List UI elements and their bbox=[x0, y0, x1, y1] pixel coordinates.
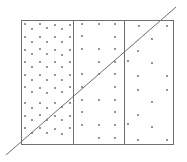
dot bbox=[31, 119, 33, 121]
dot bbox=[46, 41, 48, 43]
dot bbox=[61, 28, 63, 30]
dot bbox=[61, 41, 63, 43]
dot bbox=[114, 73, 116, 75]
dot bbox=[81, 99, 83, 101]
dot bbox=[39, 48, 41, 50]
section-right bbox=[127, 25, 168, 141]
dot bbox=[114, 48, 116, 50]
dot bbox=[127, 123, 129, 125]
dot bbox=[166, 25, 168, 27]
dot bbox=[98, 23, 100, 25]
dot bbox=[69, 127, 71, 129]
dot bbox=[46, 53, 48, 55]
dot bbox=[54, 128, 56, 130]
dot bbox=[98, 124, 100, 126]
dot bbox=[31, 41, 33, 43]
dot bbox=[46, 27, 48, 29]
dot bbox=[69, 115, 71, 117]
dot bbox=[54, 61, 56, 63]
dot bbox=[24, 74, 26, 76]
dot bbox=[54, 36, 56, 38]
dot bbox=[39, 127, 41, 129]
dot bbox=[24, 102, 26, 104]
dot bbox=[151, 62, 153, 64]
dot bbox=[61, 119, 63, 121]
dot bbox=[39, 61, 41, 63]
dot bbox=[46, 107, 48, 109]
dot bbox=[39, 74, 41, 76]
dot bbox=[98, 48, 100, 50]
dot bbox=[69, 49, 71, 51]
dot bbox=[39, 87, 41, 89]
dot bbox=[54, 74, 56, 76]
dot bbox=[31, 28, 33, 30]
dot bbox=[24, 61, 26, 63]
dot bbox=[166, 139, 168, 141]
dot bbox=[114, 36, 116, 38]
dot bbox=[114, 111, 116, 113]
dot bbox=[39, 114, 41, 116]
dot bbox=[114, 137, 116, 139]
dot bbox=[61, 79, 63, 81]
dot bbox=[24, 127, 26, 129]
dot bbox=[151, 38, 153, 40]
dot bbox=[31, 91, 33, 93]
dot bbox=[98, 61, 100, 63]
dot bbox=[39, 36, 41, 38]
dot bbox=[61, 66, 63, 68]
dot bbox=[24, 36, 26, 38]
section-left bbox=[24, 23, 71, 135]
dot bbox=[31, 53, 33, 55]
dot bbox=[54, 87, 56, 89]
dot bbox=[137, 75, 139, 77]
dot bbox=[137, 89, 139, 91]
dot bbox=[54, 24, 56, 26]
dot bbox=[46, 92, 48, 94]
dot bbox=[114, 86, 116, 88]
dot bbox=[114, 124, 116, 126]
dot bbox=[24, 49, 26, 51]
dot bbox=[137, 114, 139, 116]
dot bbox=[81, 124, 83, 126]
density-diagram bbox=[0, 0, 187, 162]
dot bbox=[69, 102, 71, 104]
dot bbox=[31, 66, 33, 68]
dot bbox=[114, 23, 116, 25]
dot bbox=[137, 139, 139, 141]
dot bbox=[31, 107, 33, 109]
dot bbox=[24, 115, 26, 117]
dot bbox=[46, 132, 48, 134]
dot bbox=[46, 66, 48, 68]
dot bbox=[69, 24, 71, 26]
dot bbox=[39, 102, 41, 104]
dot bbox=[69, 61, 71, 63]
dot bbox=[54, 49, 56, 51]
dot bbox=[31, 79, 33, 81]
dot bbox=[98, 99, 100, 101]
dot bbox=[81, 23, 83, 25]
dot bbox=[46, 79, 48, 81]
dot bbox=[151, 126, 153, 128]
dots-layer bbox=[24, 23, 168, 141]
dot bbox=[54, 115, 56, 117]
dot bbox=[61, 133, 63, 135]
dot bbox=[98, 137, 100, 139]
dot bbox=[81, 111, 83, 113]
dot bbox=[61, 91, 63, 93]
dot bbox=[69, 36, 71, 38]
section-middle bbox=[81, 23, 116, 139]
dot bbox=[61, 54, 63, 56]
dot bbox=[166, 89, 168, 91]
outer-frame bbox=[22, 21, 174, 145]
dot bbox=[39, 23, 41, 25]
dot bbox=[69, 74, 71, 76]
dot bbox=[24, 23, 26, 25]
dot bbox=[114, 99, 116, 101]
dot bbox=[81, 35, 83, 37]
dot bbox=[81, 73, 83, 75]
dot bbox=[127, 60, 129, 62]
dot bbox=[166, 75, 168, 77]
dot bbox=[69, 86, 71, 88]
dot bbox=[151, 101, 153, 103]
dot bbox=[54, 102, 56, 104]
